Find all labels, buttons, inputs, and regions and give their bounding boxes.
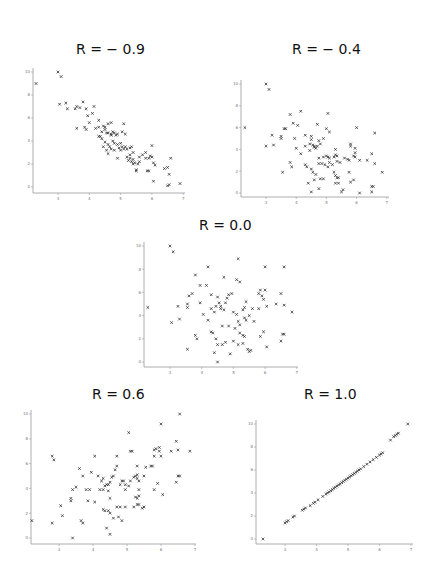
data-point-x-marker: [366, 463, 369, 466]
data-point-x-marker: [97, 135, 100, 138]
data-point-x-marker: [129, 154, 132, 157]
data-point-x-marker: [245, 319, 248, 322]
x-tick-label: 5: [325, 200, 328, 205]
data-point-x-marker: [127, 431, 130, 434]
data-point-x-marker: [147, 170, 150, 173]
data-point-x-marker: [310, 168, 313, 171]
data-point-x-marker: [310, 191, 313, 194]
data-point-x-marker: [154, 164, 157, 167]
data-point-x-marker: [213, 311, 216, 314]
data-point-x-marker: [85, 488, 88, 491]
data-point-x-marker: [280, 292, 283, 295]
data-point-x-marker: [116, 157, 119, 160]
data-point-x-marker: [199, 302, 202, 305]
data-point-x-marker: [100, 480, 103, 483]
data-point-x-marker: [358, 159, 361, 162]
data-point-x-marker: [137, 163, 140, 166]
data-point-x-marker: [231, 292, 234, 295]
y-tick-label: 10: [136, 243, 142, 248]
data-point-x-marker: [136, 465, 139, 468]
data-point-x-marker: [221, 343, 224, 346]
data-point-x-marker: [215, 305, 218, 308]
data-point-x-marker: [265, 83, 268, 86]
data-point-x-marker: [202, 313, 205, 316]
data-point-x-marker: [70, 500, 73, 503]
data-point-x-marker: [152, 180, 155, 183]
data-point-x-marker: [251, 307, 254, 310]
data-point-x-marker: [53, 459, 56, 462]
data-point-x-marker: [265, 145, 268, 148]
data-point-x-marker: [138, 495, 141, 498]
data-point-x-marker: [319, 178, 322, 181]
data-point-x-marker: [316, 145, 319, 148]
data-point-x-marker: [90, 471, 93, 474]
y-tick-label: 6: [27, 115, 30, 120]
data-point-x-marker: [118, 147, 121, 150]
data-point-x-marker: [299, 152, 302, 155]
data-point-x-marker: [262, 298, 265, 301]
data-point-x-marker: [243, 306, 246, 309]
data-point-x-marker: [308, 143, 311, 146]
data-point-x-marker: [207, 319, 210, 322]
data-point-x-marker: [121, 131, 124, 134]
data-point-x-marker: [107, 483, 110, 486]
data-point-x-marker: [107, 122, 110, 125]
data-point-x-marker: [355, 126, 358, 129]
data-point-x-marker: [170, 321, 173, 324]
data-point-x-marker: [349, 145, 352, 148]
data-point-x-marker: [121, 145, 124, 148]
data-point-x-marker: [210, 293, 213, 296]
data-point-x-marker: [242, 309, 245, 312]
data-point-x-marker: [227, 293, 230, 296]
y-tick-label: 8: [25, 436, 28, 441]
data-point-x-marker: [152, 162, 155, 165]
data-point-x-marker: [237, 320, 240, 323]
data-point-x-marker: [129, 480, 132, 483]
data-point-x-marker: [136, 477, 139, 480]
data-point-x-marker: [151, 465, 154, 468]
x-tick-label: 4: [92, 547, 95, 552]
data-point-x-marker: [369, 461, 372, 464]
scatter-plots-canvas: 0246810345670246810345670246810345670246…: [0, 0, 434, 576]
data-point-x-marker: [126, 148, 129, 151]
data-point-x-marker: [113, 149, 116, 152]
data-point-x-marker: [283, 333, 286, 336]
data-point-x-marker: [109, 512, 112, 515]
data-point-x-marker: [93, 105, 96, 108]
y-tick-label: 0: [138, 359, 141, 364]
data-point-x-marker: [348, 171, 351, 174]
data-point-x-marker: [60, 75, 63, 78]
data-point-x-marker: [238, 332, 241, 335]
data-point-x-marker: [318, 162, 321, 165]
x-tick-label: 4: [200, 370, 203, 375]
data-point-x-marker: [362, 465, 365, 468]
data-point-x-marker: [109, 481, 112, 484]
data-point-x-marker: [262, 538, 265, 541]
data-point-x-marker: [229, 353, 232, 356]
data-point-x-marker: [151, 144, 154, 147]
data-point-x-marker: [119, 149, 122, 152]
data-point-x-marker: [261, 295, 264, 298]
y-tick-label: 6: [138, 290, 141, 295]
data-point-x-marker: [216, 343, 219, 346]
y-tick-label: 10: [233, 81, 239, 86]
data-point-x-marker: [121, 519, 124, 522]
data-point-x-marker: [265, 305, 268, 308]
data-point-x-marker: [91, 112, 94, 115]
data-point-x-marker: [272, 144, 275, 147]
data-point-x-marker: [238, 324, 241, 327]
data-point-x-marker: [160, 423, 163, 426]
x-tick-label: 5: [119, 196, 122, 201]
data-point-x-marker: [113, 142, 116, 145]
data-point-x-marker: [124, 506, 127, 509]
data-point-x-marker: [144, 466, 147, 469]
data-point-x-marker: [310, 135, 313, 138]
data-point-x-marker: [102, 145, 105, 148]
data-point-x-marker: [354, 147, 357, 150]
data-point-x-marker: [175, 440, 178, 443]
data-point-x-marker: [334, 182, 337, 185]
data-point-x-marker: [158, 450, 161, 453]
data-point-x-marker: [104, 141, 107, 144]
data-point-x-marker: [310, 138, 313, 141]
x-tick-label: 3: [284, 547, 287, 552]
